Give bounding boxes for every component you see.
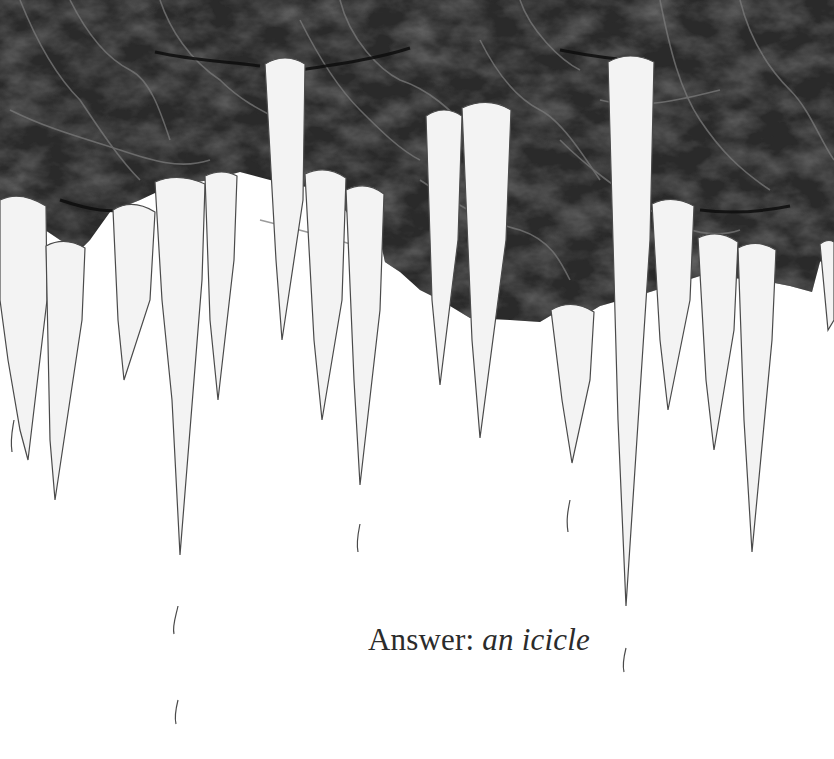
icicle bbox=[113, 204, 155, 380]
answer-text: an icicle bbox=[482, 622, 590, 657]
icicle bbox=[46, 241, 85, 500]
icicle bbox=[608, 56, 654, 606]
answer-label: Answer: bbox=[368, 622, 482, 657]
icicle bbox=[155, 177, 205, 555]
icicle bbox=[738, 243, 776, 552]
icicle bbox=[820, 240, 834, 330]
icicle bbox=[205, 172, 237, 400]
icicle bbox=[551, 304, 594, 463]
drips bbox=[11, 420, 626, 724]
icicle bbox=[426, 110, 462, 385]
icicle bbox=[0, 196, 47, 460]
icicle bbox=[652, 199, 694, 410]
answer-caption: Answer: an icicle bbox=[0, 622, 834, 658]
icicle bbox=[305, 170, 346, 420]
icicle bbox=[698, 234, 738, 450]
icicle bbox=[346, 186, 384, 485]
icicle bbox=[265, 58, 305, 340]
